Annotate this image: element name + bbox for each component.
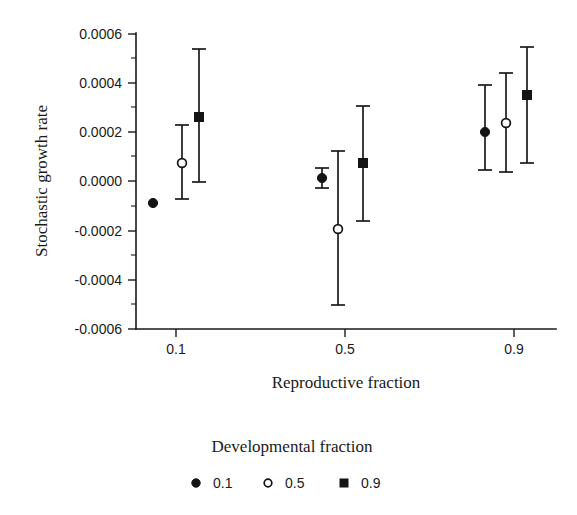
y-axis-ticks xyxy=(128,34,136,329)
datapoint-r0.9-d0.9[interactable] xyxy=(520,47,534,163)
legend: Developmental fraction 0.1 0.5 0.9 xyxy=(192,437,381,491)
series-group-0.9 xyxy=(478,47,534,172)
datapoint-r0.5-d0.5[interactable] xyxy=(331,151,345,305)
y-tick-label-2: 0.0002 xyxy=(79,124,122,140)
filled-square-marker xyxy=(359,159,368,168)
filled-square-marker xyxy=(523,91,532,100)
y-axis-title: Stochastic growth rate xyxy=(32,105,51,257)
filled-square-marker xyxy=(195,113,204,122)
legend-label-0: 0.1 xyxy=(213,475,233,491)
x-tick-label-0: 0.1 xyxy=(166,341,186,357)
open-circle-marker xyxy=(178,159,187,168)
y-tick-label-5: -0.0004 xyxy=(75,272,123,288)
y-tick-label-0: 0.0006 xyxy=(79,26,122,42)
filled-circle-marker xyxy=(480,127,489,136)
datapoint-r0.5-d0.1[interactable] xyxy=(315,168,329,188)
filled-square-icon xyxy=(340,479,348,487)
y-tick-label-3: 0.0000 xyxy=(79,173,122,189)
series-group-0.1 xyxy=(148,49,206,208)
y-tick-label-6: -0.0006 xyxy=(75,321,123,337)
filled-circle-marker xyxy=(317,173,326,182)
x-axis-title: Reproductive fraction xyxy=(272,373,421,392)
datapoint-r0.9-d0.1[interactable] xyxy=(478,85,492,170)
datapoint-r0.1-d0.1[interactable] xyxy=(148,198,157,207)
x-axis-ticks xyxy=(176,329,514,337)
datapoint-r0.9-d0.5[interactable] xyxy=(499,73,513,172)
legend-label-2: 0.9 xyxy=(361,475,381,491)
y-tick-label-1: 0.0004 xyxy=(79,75,122,91)
chart-canvas: 0.0006 0.0004 0.0002 0.0000 -0.0002 -0.0… xyxy=(0,0,577,515)
legend-entry-0[interactable]: 0.1 xyxy=(192,475,233,491)
y-tick-label-4: -0.0002 xyxy=(75,223,123,239)
series-group-0.5 xyxy=(315,106,370,305)
x-tick-label-1: 0.5 xyxy=(335,341,355,357)
datapoint-r0.1-d0.5[interactable] xyxy=(175,125,189,199)
legend-label-1: 0.5 xyxy=(285,475,305,491)
open-circle-marker xyxy=(334,225,343,234)
legend-entry-2[interactable]: 0.9 xyxy=(340,475,381,491)
legend-title: Developmental fraction xyxy=(212,437,373,456)
legend-entry-1[interactable]: 0.5 xyxy=(264,475,304,491)
x-tick-label-2: 0.9 xyxy=(504,341,524,357)
open-circle-icon xyxy=(264,479,272,487)
figure-container: 0.0006 0.0004 0.0002 0.0000 -0.0002 -0.0… xyxy=(0,0,577,515)
filled-circle-marker xyxy=(148,198,157,207)
datapoint-r0.5-d0.9[interactable] xyxy=(356,106,370,221)
datapoint-r0.1-d0.9[interactable] xyxy=(192,49,206,182)
filled-circle-icon xyxy=(192,479,200,487)
open-circle-marker xyxy=(502,119,511,128)
